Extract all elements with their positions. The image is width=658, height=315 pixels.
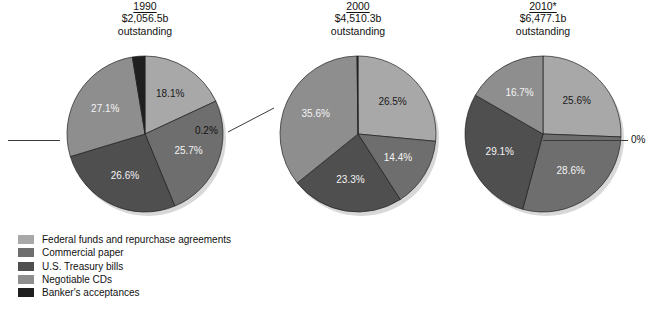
pie-slice-label: 35.6%	[302, 108, 330, 119]
panel-subtitle-label: outstanding	[428, 25, 658, 37]
legend-item: Negotiable CDs	[18, 273, 231, 286]
legend-swatch-bankers-acceptances	[18, 288, 34, 297]
chart-canvas: 1990 $2,056.5b outstanding 18.1%25.7%26.…	[0, 0, 658, 315]
legend-item: U.S. Treasury bills	[18, 260, 231, 273]
legend-swatch-treasury-bills	[18, 262, 34, 271]
legend-swatch-commercial-paper	[18, 248, 34, 257]
pie-slice-label: 26.5%	[378, 96, 406, 107]
pie-slice-label: 26.6%	[111, 170, 139, 181]
panel-amount-label: $2,056.5b	[30, 12, 260, 24]
pie-panel-2010: 2010* $6,477.1b outstanding 25.6%28.6%29…	[428, 0, 658, 232]
callout-leader-line-2000	[226, 104, 286, 138]
pie-slice-label: 18.1%	[156, 88, 184, 99]
callout-leader-line-1990	[8, 140, 60, 141]
legend-item: Commercial paper	[18, 246, 231, 259]
pie-slice-label: 14.4%	[384, 152, 412, 163]
legend-swatch-federal-funds	[18, 235, 34, 244]
pie-slice-label: 29.1%	[486, 146, 514, 157]
panel-subtitle-label: outstanding	[30, 25, 260, 37]
pie-slice-label: 25.7%	[174, 145, 202, 156]
legend-label: U.S. Treasury bills	[42, 261, 123, 272]
legend-item: Federal funds and repurchase agreements	[18, 233, 231, 246]
pie-slice-label: 27.1%	[91, 103, 119, 114]
pie-slice-label: 16.7%	[505, 87, 533, 98]
pie-svg-2010: 25.6%28.6%29.1%16.7%	[428, 46, 658, 232]
legend-item: Banker's acceptances	[18, 286, 231, 299]
pie-graphic-2010: 25.6%28.6%29.1%16.7%	[428, 46, 658, 232]
panel-year-label: 1990	[133, 0, 156, 12]
panel-year-label: 2000	[346, 0, 369, 12]
panel-heading-1990: 1990 $2,056.5b outstanding	[30, 0, 260, 37]
panel-year-label: 2010*	[529, 0, 556, 12]
legend-label: Federal funds and repurchase agreements	[42, 234, 231, 245]
legend-label: Banker's acceptances	[42, 287, 140, 298]
legend-label: Commercial paper	[42, 247, 124, 258]
callout-label-2000: 0.2%	[195, 125, 218, 136]
chart-legend: Federal funds and repurchase agreements …	[18, 233, 231, 299]
pie-svg-1990: 18.1%25.7%26.6%27.1%	[30, 46, 260, 232]
legend-swatch-negotiable-cds	[18, 275, 34, 284]
pie-slice-label: 25.6%	[563, 95, 591, 106]
callout-leader-line-2010	[543, 140, 628, 141]
panel-amount-label: $6,477.1b	[428, 12, 658, 24]
pie-graphic-1990: 18.1%25.7%26.6%27.1%	[30, 46, 260, 232]
pie-slice-label: 23.3%	[336, 174, 364, 185]
callout-label-2010: 0%	[631, 134, 645, 145]
panel-heading-2010: 2010* $6,477.1b outstanding	[428, 0, 658, 37]
pie-slice-label: 28.6%	[557, 165, 585, 176]
legend-label: Negotiable CDs	[42, 274, 112, 285]
